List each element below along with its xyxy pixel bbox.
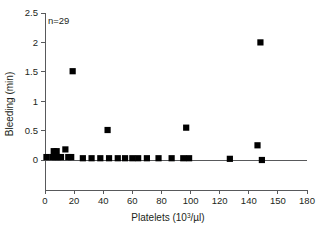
x-axis-title-base: Platelets (10 xyxy=(131,212,187,223)
sample-size-annotation: n=29 xyxy=(48,15,69,26)
y-tick-label: 1.5 xyxy=(25,66,38,77)
x-tick-label: 150 xyxy=(270,195,286,206)
data-point-marker xyxy=(104,127,110,133)
y-tick-label: 2.5 xyxy=(25,7,38,18)
y-tick-label: 0.5 xyxy=(25,125,38,136)
x-tick-label: 80 xyxy=(156,195,167,206)
y-tick-label: 0 xyxy=(33,154,38,165)
x-tick-label: 40 xyxy=(98,195,109,206)
data-point-marker xyxy=(259,157,265,163)
y-tick-label: 2 xyxy=(33,37,38,48)
data-point-marker xyxy=(183,125,189,131)
axes-group xyxy=(45,13,307,190)
scatter-plot-figure: 00.511.522.5 020406080100120140150180 n=… xyxy=(0,0,322,240)
data-point-marker xyxy=(122,155,128,161)
data-markers-group xyxy=(43,39,265,163)
y-axis-title: Bleeding (min) xyxy=(4,72,15,136)
data-point-marker xyxy=(180,155,186,161)
x-tick-label: 180 xyxy=(299,195,315,206)
data-point-marker xyxy=(186,155,192,161)
x-tick-label: 100 xyxy=(183,195,199,206)
data-point-marker xyxy=(135,155,141,161)
data-point-marker xyxy=(68,154,74,160)
data-point-marker xyxy=(97,155,103,161)
data-point-marker xyxy=(62,146,68,152)
y-tick-label: 1 xyxy=(33,96,38,107)
data-point-marker xyxy=(54,148,60,154)
x-tick-label: 20 xyxy=(69,195,80,206)
data-point-marker xyxy=(58,154,64,160)
x-axis-ticks: 020406080100120140150180 xyxy=(42,190,315,206)
y-axis-ticks: 00.511.522.5 xyxy=(25,7,45,165)
data-point-marker xyxy=(43,154,49,160)
data-point-marker xyxy=(155,155,161,161)
data-point-marker xyxy=(227,156,233,162)
data-point-marker xyxy=(254,142,260,148)
x-axis-title-tail: /µl) xyxy=(191,212,205,223)
x-tick-label: 60 xyxy=(127,195,138,206)
data-point-marker xyxy=(80,155,86,161)
data-point-marker xyxy=(106,155,112,161)
x-tick-label: 140 xyxy=(241,195,257,206)
data-point-marker xyxy=(257,39,263,45)
x-tick-label: 0 xyxy=(42,195,47,206)
chart-canvas: 00.511.522.5 020406080100120140150180 n=… xyxy=(0,0,322,240)
x-tick-label: 120 xyxy=(212,195,228,206)
data-point-marker xyxy=(169,155,175,161)
data-point-marker xyxy=(88,155,94,161)
x-axis-title: Platelets (103/µl) xyxy=(131,212,204,224)
data-point-marker xyxy=(144,155,150,161)
data-point-marker xyxy=(70,68,76,74)
data-point-marker xyxy=(129,155,135,161)
data-point-marker xyxy=(115,155,121,161)
